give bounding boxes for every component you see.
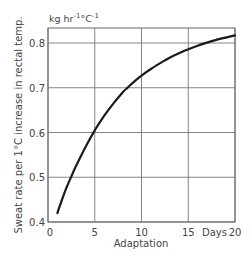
y-tick-label: 0.5 [29,172,45,183]
series-line-sweat-rate [57,35,235,213]
y-axis-label: Sweat rate per 1°C increase in rectal te… [13,16,24,233]
x-tick-label: 20 [229,227,242,238]
grid [48,28,235,222]
y-tick-label: 0.4 [29,217,45,228]
x-tick-label: 0 [47,227,53,238]
x-tick-label: 15 [182,227,195,238]
x-tick-label: 5 [92,227,98,238]
x-axis-label: Adaptation [114,238,169,249]
y-tick-label: 0.6 [29,128,45,139]
chart: 0.40.50.60.70.8 05101520 kg hr-1°C-1 Swe… [0,0,252,259]
y-tick-label: 0.8 [29,38,45,49]
y-tick-labels: 0.40.50.60.70.8 [29,38,45,228]
y-tick-label: 0.7 [29,83,45,94]
y-unit-label: kg hr-1°C-1 [49,12,99,24]
x-tick-label: 10 [135,227,148,238]
x-unit-label: Days [202,227,227,238]
